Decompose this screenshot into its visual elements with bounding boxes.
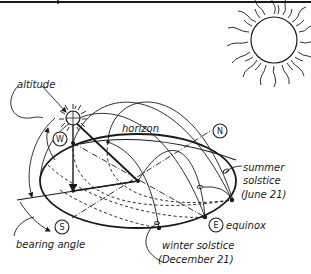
summer-solstice-label-2: solstice [243,175,281,186]
diagram-canvas: W N S E altitude horizon bearing angle s… [0,0,311,274]
summer-solstice-label-3: (June 21) [241,189,286,200]
altitude-label: altitude [17,79,55,90]
compass-west: W [53,132,67,146]
winter-solstice-point [157,226,161,230]
compass-east-label: E [213,221,218,230]
horizon-arc-point [106,140,110,144]
compass-south-label: S [59,223,64,232]
key-points [71,140,234,230]
center-point [136,179,140,183]
altitude-base-point [71,189,75,193]
sun-ground-point [71,141,75,145]
bearing-angle-label: bearing angle [16,239,85,250]
large-sun-icon [227,0,311,87]
winter-solstice-label-1: winter solstice [162,240,234,251]
compass-east: E [209,218,223,232]
summer-solstice-label-1: summer [243,162,285,173]
compass-west-label: W [56,135,64,144]
equinox-point [203,215,207,219]
compass-north: N [213,124,227,138]
horizon-label: horizon [122,123,159,134]
axis-lines [72,130,212,218]
sun-path-diagram: W N S E altitude horizon bearing angle s… [0,0,311,274]
top-frame [0,0,311,4]
compass-north-label: N [217,127,223,136]
compass-south: S [55,220,69,234]
bearing-angle-arc [14,202,50,236]
winter-solstice-label-2: (December 21) [158,254,234,265]
equinox-label: equinox [226,220,266,231]
